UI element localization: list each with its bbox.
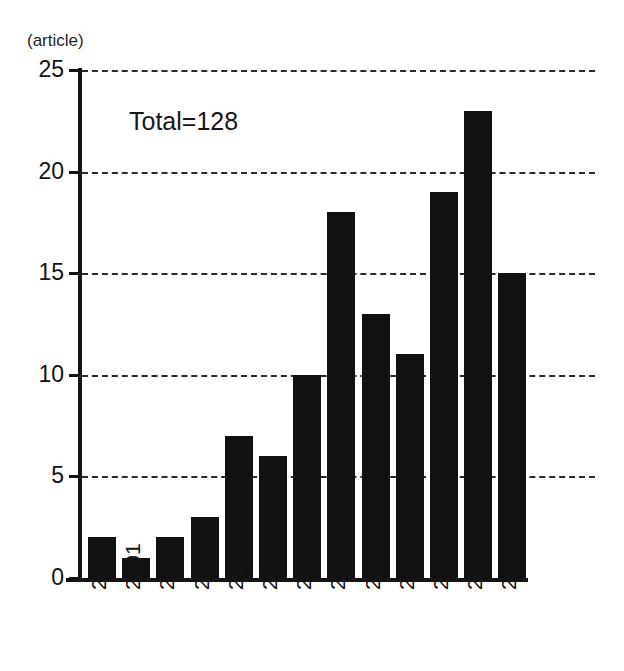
x-tick-label-2010: 2010	[430, 584, 458, 605]
x-axis-tick-labels: 2000200120022003200420052006200720082009…	[82, 584, 595, 671]
total-annotation: Total=128	[129, 107, 238, 136]
x-tick-label-text: 2003	[191, 584, 212, 612]
x-tick-label-text: 2006	[293, 584, 314, 612]
x-tick-label-text: 2001	[122, 584, 143, 612]
plot-area	[82, 70, 595, 578]
x-tick-label-2002: 2002	[156, 584, 184, 605]
y-tick-label-10: 10	[18, 363, 64, 386]
bar-2008	[362, 314, 390, 578]
x-tick-label-text: 2009	[396, 584, 417, 612]
x-tick-label-text: 2005	[259, 584, 280, 612]
y-axis-tick-labels: 0510152025	[0, 0, 64, 671]
bar-2010	[430, 192, 458, 578]
y-tick-label-20: 20	[18, 160, 64, 183]
x-tick-label-2005: 2005	[259, 584, 287, 605]
x-tick-label-text: 2002	[156, 584, 177, 612]
x-tick-label-text: 2000	[88, 584, 109, 612]
x-tick-label-text: 2012	[498, 584, 519, 612]
x-tick-label-2000: 2000	[88, 584, 116, 605]
x-tick-label-text: 2004	[225, 584, 246, 612]
gridline-25	[82, 70, 595, 72]
x-tick-label-text: 2008	[362, 584, 383, 612]
x-tick-label-2004: 2004	[225, 584, 253, 605]
x-tick-label-text: 2011	[464, 584, 485, 612]
y-tick-label-25: 25	[18, 58, 64, 81]
y-tick-label-15: 15	[18, 261, 64, 284]
x-tick-label-2009: 2009	[396, 584, 424, 605]
bar-2011	[464, 111, 492, 578]
bar-2012	[498, 273, 526, 578]
y-tick-label-5: 5	[18, 464, 64, 487]
gridline-20	[82, 172, 595, 174]
x-tick-label-text: 2010	[430, 584, 451, 612]
y-tick-label-0: 0	[18, 566, 64, 589]
x-tick-label-2012: 2012	[498, 584, 526, 605]
x-tick-label-text: 2007	[327, 584, 348, 612]
x-tick-label-2001: 2001	[122, 584, 150, 605]
x-tick-label-2007: 2007	[327, 584, 355, 605]
bar-2007	[327, 212, 355, 578]
x-tick-label-2006: 2006	[293, 584, 321, 605]
x-tick-label-2008: 2008	[362, 584, 390, 605]
x-tick-label-2003: 2003	[191, 584, 219, 605]
x-tick-label-2011: 2011	[464, 584, 492, 605]
